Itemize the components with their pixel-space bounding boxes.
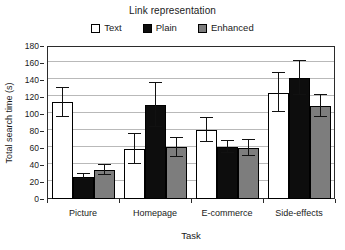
bar-slot: [289, 46, 310, 199]
y-tick-label: 120: [25, 93, 39, 102]
y-tick-label: 60: [30, 144, 39, 153]
y-tick-mark: [40, 182, 44, 183]
error-bar-cap: [170, 137, 183, 138]
chart-legend: TextPlainEnhanced: [0, 23, 345, 33]
bar-picture-text[interactable]: [52, 102, 73, 199]
bar-slot: [145, 46, 166, 199]
y-tick-mark: [40, 148, 44, 149]
error-bar-cap: [221, 152, 234, 153]
bar-slot: [166, 46, 187, 199]
bar-group-homepage: [119, 46, 191, 199]
x-tick-mark: [335, 199, 336, 203]
x-axis-label-homepage: Homepage: [119, 208, 191, 218]
error-bar-cap: [128, 133, 141, 134]
x-axis-labels: PictureHomepageE-commerceSide-effects: [47, 208, 335, 218]
error-bar-cap: [77, 173, 90, 174]
y-tick-mark: [40, 199, 44, 200]
error-bar: [278, 73, 279, 112]
y-tick-mark: [40, 46, 44, 47]
y-tick-label: 100: [25, 110, 39, 119]
error-bar-cap: [200, 117, 213, 118]
error-bar-cap: [56, 87, 69, 88]
x-tick-mark: [47, 199, 48, 203]
y-tick-mark: [40, 114, 44, 115]
bar-slot: [238, 46, 259, 199]
legend-item-enhanced[interactable]: Enhanced: [198, 23, 254, 33]
error-bar-cap: [272, 111, 285, 112]
error-bar: [134, 134, 135, 165]
bar-slot: [52, 46, 73, 199]
legend-item-plain[interactable]: Plain: [143, 23, 177, 33]
y-tick-label: 160: [25, 59, 39, 68]
bar-chart: Link representation TextPlainEnhanced To…: [0, 0, 345, 250]
bar-slot: [94, 46, 115, 199]
x-axis-label-side-effects: Side-effects: [263, 208, 335, 218]
x-tick-mark: [263, 199, 264, 203]
bar-slot: [196, 46, 217, 199]
bar-group-e-commerce: [191, 46, 263, 199]
error-bar: [155, 83, 156, 127]
error-bar: [248, 140, 249, 155]
error-bar-cap: [149, 82, 162, 83]
error-bar-cap: [314, 94, 327, 95]
error-bar-cap: [293, 60, 306, 61]
error-bar: [206, 118, 207, 142]
y-tick-label: 40: [30, 161, 39, 170]
error-bar-cap: [77, 178, 90, 179]
error-bar-cap: [242, 139, 255, 140]
x-axis-title: Task: [47, 230, 335, 241]
y-tick-mark: [40, 97, 44, 98]
error-bar-cap: [128, 163, 141, 164]
error-bar: [62, 88, 63, 117]
y-tick-mark: [40, 80, 44, 81]
bar-slot: [268, 46, 289, 199]
bar-picture-plain[interactable]: [73, 177, 94, 199]
bar-slot: [73, 46, 94, 199]
error-bar-cap: [98, 174, 111, 175]
bar-slot: [217, 46, 238, 199]
y-tick-mark: [40, 63, 44, 64]
legend-label: Enhanced: [211, 23, 254, 33]
error-bar: [299, 61, 300, 95]
y-tick-label: 180: [25, 42, 39, 51]
bar-slot: [310, 46, 331, 199]
legend-swatch-icon: [91, 24, 100, 33]
bars-layer: [47, 46, 335, 199]
bar-e-commerce-plain[interactable]: [217, 147, 238, 199]
error-bar: [176, 138, 177, 157]
error-bar-cap: [98, 164, 111, 165]
legend-label: Text: [104, 23, 121, 33]
y-tick-label: 140: [25, 76, 39, 85]
error-bar-cap: [314, 116, 327, 117]
y-tick-label: 0: [34, 195, 39, 204]
bar-slot: [124, 46, 145, 199]
error-bar-cap: [149, 126, 162, 127]
chart-title: Link representation: [0, 5, 345, 16]
x-tick-mark: [191, 199, 192, 203]
y-tick-label: 20: [30, 178, 39, 187]
bar-group-side-effects: [263, 46, 335, 199]
bar-side-effects-plain[interactable]: [289, 78, 310, 199]
legend-item-text[interactable]: Text: [91, 23, 121, 33]
x-axis-label-picture: Picture: [47, 208, 119, 218]
error-bar-cap: [272, 72, 285, 73]
bar-group-picture: [47, 46, 119, 199]
bar-side-effects-enhanced[interactable]: [310, 106, 331, 199]
legend-swatch-icon: [198, 24, 207, 33]
x-tick-mark: [119, 199, 120, 203]
error-bar-cap: [56, 116, 69, 117]
y-tick-mark: [40, 165, 44, 166]
error-bar-cap: [242, 155, 255, 156]
error-bar: [320, 95, 321, 117]
error-bar-cap: [221, 140, 234, 141]
x-axis-label-e-commerce: E-commerce: [191, 208, 263, 218]
x-axis-ticks: [47, 199, 335, 204]
error-bar-cap: [293, 94, 306, 95]
legend-swatch-icon: [143, 24, 152, 33]
error-bar-cap: [200, 141, 213, 142]
y-axis: 020406080100120140160180: [0, 46, 44, 199]
error-bar-cap: [170, 156, 183, 157]
y-tick-label: 80: [30, 127, 39, 136]
legend-label: Plain: [156, 23, 177, 33]
y-tick-mark: [40, 131, 44, 132]
